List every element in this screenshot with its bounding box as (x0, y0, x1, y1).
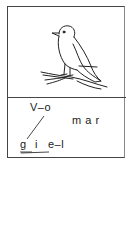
puzzle-letter-i: i (35, 138, 38, 150)
puzzle-answer-word: m a r (72, 114, 100, 126)
puzzle-top-word: V–o (30, 101, 51, 113)
puzzle-bottom-word: e–l (48, 138, 64, 150)
puzzle-letter-g: g (20, 138, 27, 150)
